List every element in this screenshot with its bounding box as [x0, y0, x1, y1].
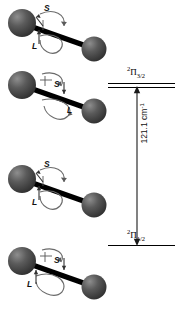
orbital-rotation-arc	[40, 191, 62, 209]
atom-sphere-right	[82, 275, 107, 300]
spin-vector	[36, 17, 43, 26]
molecule-1-orbital-label: L	[32, 41, 37, 51]
molecule-2: S L	[6, 66, 111, 124]
upper-term-j: 3/2	[137, 72, 145, 79]
molecule-3-spin-label: S	[44, 159, 50, 169]
spin-vector	[36, 173, 43, 182]
molecule-3: S L	[6, 160, 111, 218]
molecule-4-spin-label: S	[54, 255, 60, 265]
molecule-1-graphic	[6, 4, 111, 62]
atom-sphere-right	[82, 37, 107, 62]
molecule-4-graphic	[6, 240, 111, 302]
splitting-arrow-head-down	[134, 239, 140, 246]
atom-sphere-right	[82, 193, 107, 218]
molecule-1-spin-label: S	[44, 3, 50, 13]
atom-sphere-right	[82, 99, 107, 124]
molecule-3-orbital-label: L	[32, 197, 37, 207]
molecule-4-orbital-label: L	[27, 279, 32, 289]
atom-sphere-left	[8, 9, 36, 37]
splitting-energy-label: 121.1 cm-1	[139, 83, 150, 163]
splitting-unit: cm	[139, 109, 149, 120]
molecule-1: S L	[6, 4, 111, 62]
figure-canvas: S L S	[0, 0, 175, 317]
orbital-vector-arrowhead	[34, 270, 38, 274]
spin-arc-arrowhead	[61, 178, 67, 182]
spin-rotation-arc	[40, 12, 64, 26]
orbital-rotation-arc	[40, 35, 62, 53]
splitting-value: 121.1	[139, 122, 149, 143]
atom-sphere-left	[8, 71, 36, 99]
spin-rotation-arc	[40, 168, 64, 182]
upper-level-term-symbol: 2Π3/2	[127, 65, 145, 79]
molecule-2-orbital-label: L	[67, 105, 72, 115]
atom-sphere-left	[8, 247, 36, 275]
splitting-unit-exponent: -1	[139, 103, 145, 108]
molecule-3-graphic	[6, 160, 111, 218]
spin-vector-arrowhead	[62, 90, 66, 94]
molecule-2-spin-label: S	[54, 79, 60, 89]
spin-vector-arrowhead	[62, 266, 66, 270]
spin-arc-arrowhead	[61, 22, 67, 26]
molecule-4: S L	[6, 240, 111, 298]
molecule-2-graphic	[6, 66, 111, 124]
atom-sphere-left	[8, 165, 36, 193]
